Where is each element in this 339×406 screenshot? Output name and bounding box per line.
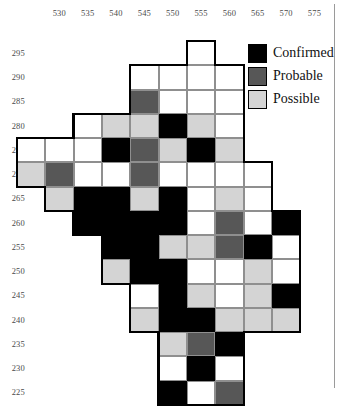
grid-outline-segment (243, 331, 274, 333)
grid-outline-segment (299, 258, 301, 284)
grid-cell (130, 65, 158, 89)
grid-cell (159, 114, 187, 138)
legend-label-confirmed: Confirmed (273, 46, 334, 60)
grid-cell (102, 259, 130, 283)
grid-cell (102, 235, 130, 259)
grid-outline-segment (129, 64, 131, 90)
grid-outline-segment (186, 40, 217, 42)
grid-cell (187, 90, 215, 114)
grid-outline-segment (129, 64, 160, 66)
grid-outline-segment (214, 40, 216, 66)
grid-cell (187, 162, 215, 186)
grid-cell (102, 114, 130, 138)
grid-cell (159, 211, 187, 235)
grid-cell (215, 284, 243, 308)
grid-outline-segment (271, 331, 302, 333)
grid-outline-segment (243, 161, 274, 163)
legend-swatch-probable-icon (248, 67, 267, 86)
grid-cell (74, 162, 102, 186)
grid-cell (17, 162, 45, 186)
grid-cell (45, 162, 73, 186)
grid-cell (130, 235, 158, 259)
figure-right-rule (334, 4, 335, 388)
grid-cell (159, 308, 187, 332)
grid-cell (102, 162, 130, 186)
grid-outline-segment (129, 307, 131, 333)
grid-cell (102, 211, 130, 235)
grid-outline-segment (243, 331, 245, 357)
grid-cell (187, 356, 215, 380)
grid-cell (74, 138, 102, 162)
grid-outline-segment (16, 137, 18, 163)
grid-cell (159, 332, 187, 356)
grid-outline-segment (72, 113, 103, 115)
grid-outline-segment (44, 137, 75, 139)
grid-outline-segment (129, 331, 160, 333)
grid-cell (187, 308, 215, 332)
grid-cell (130, 162, 158, 186)
grid-cell (244, 211, 272, 235)
grid-cell (130, 211, 158, 235)
grid-cell (244, 259, 272, 283)
grid-cell (187, 235, 215, 259)
legend: Confirmed Probable Possible (248, 42, 336, 111)
grid-cell (272, 235, 300, 259)
grid-cell (45, 138, 73, 162)
grid-cell (159, 138, 187, 162)
grid-cell (159, 381, 187, 405)
grid-cell (17, 138, 45, 162)
grid-cell (215, 138, 243, 162)
grid-cell (215, 162, 243, 186)
grid-cell (187, 138, 215, 162)
grid-cell (215, 90, 243, 114)
grid-cell (130, 284, 158, 308)
grid-cell (215, 65, 243, 89)
grid-cell (187, 65, 215, 89)
grid-outline-segment (243, 64, 245, 90)
grid-cell (215, 259, 243, 283)
grid-cell (159, 187, 187, 211)
grid-outline-segment (101, 113, 132, 115)
grid-cell (102, 138, 130, 162)
grid-cell (215, 332, 243, 356)
grid-cell (272, 308, 300, 332)
grid-cell (187, 332, 215, 356)
grid-cell (215, 114, 243, 138)
grid-cell (244, 187, 272, 211)
legend-item-probable: Probable (248, 65, 336, 87)
grid-outline-segment (72, 210, 74, 236)
grid-cell (45, 187, 73, 211)
grid-cell (187, 211, 215, 235)
grid-outline-segment (129, 283, 131, 309)
grid-outline-segment (299, 307, 301, 333)
grid-outline-segment (243, 113, 245, 139)
grid-outline-segment (157, 331, 159, 357)
grid-cell (215, 187, 243, 211)
grid-cell (272, 211, 300, 235)
grid-outline-segment (243, 89, 245, 115)
grid-cell (130, 259, 158, 283)
grid-cell (74, 187, 102, 211)
grid-outline-segment (44, 186, 46, 212)
grid-cell (159, 259, 187, 283)
grid-cell (244, 235, 272, 259)
grid-cell (130, 138, 158, 162)
grid-outline-segment (44, 210, 75, 212)
legend-swatch-possible-icon (248, 90, 267, 109)
grid-outline-segment (101, 258, 103, 284)
grid-cell (159, 356, 187, 380)
legend-label-possible: Possible (273, 92, 320, 106)
grid-outline-segment (243, 380, 245, 406)
grid-cell (159, 284, 187, 308)
grid-cell (215, 381, 243, 405)
grid-outline-segment (299, 210, 301, 236)
grid-cell (159, 235, 187, 259)
grid-outline-segment (72, 113, 74, 139)
grid-cell (74, 114, 102, 138)
grid-cell (159, 65, 187, 89)
legend-swatch-confirmed-icon (248, 44, 267, 63)
grid-cell (130, 90, 158, 114)
grid-outline-segment (271, 161, 273, 187)
grid-cell (215, 356, 243, 380)
